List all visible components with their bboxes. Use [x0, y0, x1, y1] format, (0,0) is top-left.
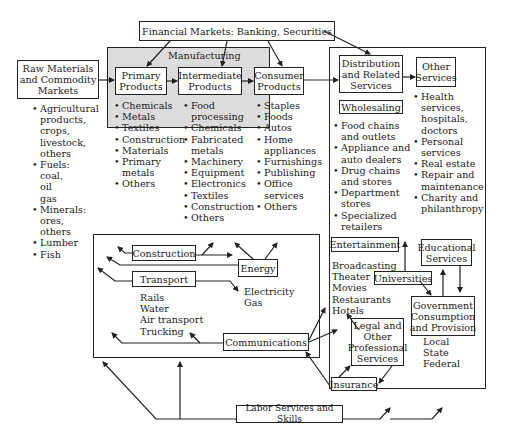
- flow-arrows: [0, 0, 505, 447]
